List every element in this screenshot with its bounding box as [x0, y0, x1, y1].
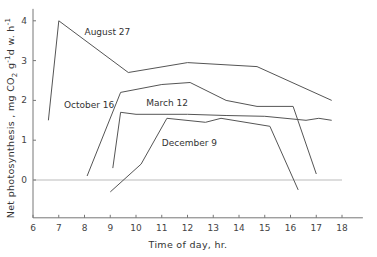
x-tick-label: 11	[156, 223, 167, 233]
x-tick-label: 18	[336, 223, 348, 233]
series-label-october-16: October 16	[64, 100, 115, 110]
x-tick-label: 8	[82, 223, 88, 233]
y-tick-label: 1	[21, 135, 27, 145]
series-line-october-16	[87, 83, 316, 177]
x-tick-label: 10	[130, 223, 142, 233]
x-tick-label: 9	[107, 223, 113, 233]
series-line-march-12	[113, 112, 332, 168]
series-label-august-27: August 27	[85, 27, 131, 37]
y-tick-label: 3	[21, 56, 27, 66]
y-axis-title: Net photosynthesis , mg CO2 g-1d w. h-1	[4, 18, 19, 219]
x-tick-label: 13	[208, 223, 219, 233]
series-label-december-9: December 9	[162, 138, 218, 148]
x-tick-label: 17	[311, 223, 322, 233]
series-labels: August 27October 16March 12December 9	[64, 27, 217, 148]
series-line-december-9	[110, 118, 298, 192]
x-axis-title: Time of day, hr.	[148, 239, 228, 250]
x-tick-label: 16	[285, 223, 297, 233]
y-tick-label: 4	[21, 16, 27, 26]
x-tick-label: 7	[56, 223, 62, 233]
y-tick-label: 0	[21, 175, 27, 185]
x-tick-label: 14	[233, 223, 245, 233]
photosynthesis-chart: 678910111213141516171801234 August 27Oct…	[0, 0, 377, 257]
x-tick-label: 15	[259, 223, 270, 233]
y-tick-label: 2	[21, 95, 27, 105]
series-label-march-12: March 12	[146, 98, 188, 108]
x-tick-label: 12	[182, 223, 193, 233]
x-tick-label: 6	[30, 223, 36, 233]
